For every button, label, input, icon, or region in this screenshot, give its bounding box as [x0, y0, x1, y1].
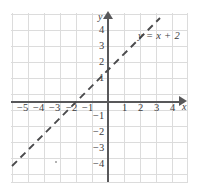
y-tick-label-neg1: −1	[93, 111, 104, 121]
y-axis	[107, 18, 109, 182]
x-tick-label-neg4: −4	[33, 103, 44, 113]
y-tick-label-2: 2	[99, 57, 104, 67]
x-tick-label-neg1: −1	[82, 103, 93, 113]
y-tick-label-1: 1	[99, 73, 104, 83]
x-tick-label-neg2: −2	[66, 103, 77, 113]
equation-annotation: y = x + 2	[138, 30, 180, 41]
y-tick-label-neg4: −4	[93, 159, 104, 169]
y-axis-arrow-icon	[103, 11, 113, 19]
x-tick-label-neg3: −3	[49, 103, 60, 113]
x-tick-label-4: 4	[170, 103, 175, 113]
y-tick-label-3: 3	[99, 41, 104, 51]
y-tick-label-neg2: −2	[93, 127, 104, 137]
y-tick-label-neg3: −3	[93, 143, 104, 153]
x-tick-label-neg5: −5	[17, 103, 28, 113]
x-axis-label: x	[182, 102, 186, 112]
y-tick-label-4: 4	[99, 25, 104, 35]
x-tick-label-3: 3	[154, 103, 159, 113]
graph-figure: −5 −4 −3 −2 −1 1 2 3 4 x y 4 3 2 1 −1 −2…	[0, 0, 198, 190]
stray-speck	[55, 161, 57, 163]
x-tick-label-2: 2	[138, 103, 143, 113]
x-tick-label-1: 1	[122, 103, 127, 113]
equation-text: y = x + 2	[138, 30, 180, 41]
y-axis-label: y	[98, 12, 102, 22]
